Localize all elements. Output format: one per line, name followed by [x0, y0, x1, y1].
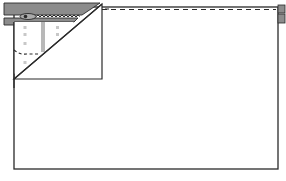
zipper-tape-end-top: [278, 5, 285, 13]
zipper-tape-end-bottom: [278, 14, 285, 23]
fabric-stripe: [41, 22, 45, 52]
diagram-canvas: [0, 0, 286, 181]
zipper-pull: [20, 14, 36, 20]
